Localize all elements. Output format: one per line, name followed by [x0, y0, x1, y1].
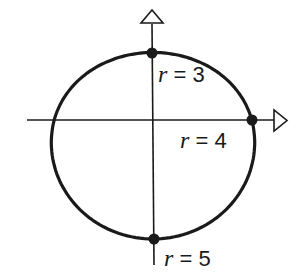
point-right-r4: [247, 115, 258, 126]
label-r5: r = 5: [164, 246, 211, 270]
label-r3: r = 3: [158, 62, 205, 86]
point-bottom-r5: [149, 234, 160, 245]
point-top-r3: [147, 48, 158, 59]
horizontal-axis-arrow-icon: [274, 110, 287, 131]
label-r4-value: 4: [214, 128, 226, 153]
label-r3-eq: =: [173, 62, 186, 87]
polar-curve-diagram: [0, 0, 298, 277]
label-r4-eq: =: [195, 128, 208, 153]
label-r5-value: 5: [198, 246, 210, 271]
label-r5-eq: =: [179, 246, 192, 271]
vertical-axis: [152, 24, 154, 265]
label-r3-value: 3: [192, 62, 204, 87]
label-r3-var: r: [158, 61, 167, 87]
label-r4-var: r: [180, 127, 189, 153]
vertical-axis-arrow-icon: [141, 10, 163, 23]
label-r4: r = 4: [180, 128, 227, 152]
label-r5-var: r: [164, 245, 173, 271]
